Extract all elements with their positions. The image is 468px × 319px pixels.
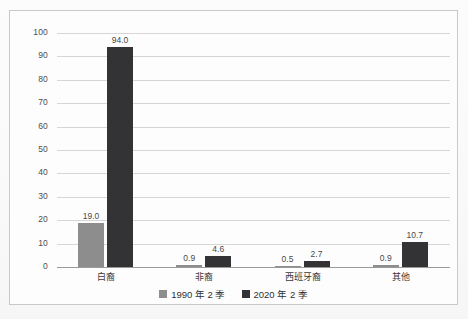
bar-1990-3[interactable]: [373, 265, 399, 267]
bar-2020-1[interactable]: [205, 256, 231, 267]
bar-2020-3[interactable]: [402, 242, 428, 267]
bar-value-2020-2: 2.7: [294, 250, 340, 259]
category-label-0: 白裔: [57, 270, 155, 283]
y-axis-tick-70: 70: [14, 98, 48, 107]
y-axis-tick-100: 100: [14, 28, 48, 37]
category-label-2: 西班牙裔: [254, 270, 352, 283]
legend-swatch-2020-icon: [242, 290, 250, 298]
y-axis-tick-60: 60: [14, 122, 48, 131]
legend-item-1990[interactable]: 1990 年 2 季: [159, 287, 225, 301]
bar-2020-0[interactable]: [107, 47, 133, 267]
chart-frame: 100 90 80 70 60 50 40 30 20 10 0 19.0 9: [9, 10, 458, 305]
gridline-zero-axis: [57, 267, 450, 268]
y-axis-tick-50: 50: [14, 145, 48, 154]
bar-group-3: 0.9 10.7: [352, 33, 450, 267]
bar-1990-0[interactable]: [78, 223, 104, 267]
bar-2020-2[interactable]: [304, 261, 330, 267]
bar-1990-2[interactable]: [275, 266, 301, 267]
y-axis-tick-30: 30: [14, 192, 48, 201]
category-label-1: 非裔: [155, 270, 253, 283]
y-axis-tick-20: 20: [14, 215, 48, 224]
bar-1990-1[interactable]: [176, 265, 202, 267]
bar-value-2020-1: 4.6: [195, 245, 241, 254]
y-axis-tick-80: 80: [14, 75, 48, 84]
bar-value-2020-3: 10.7: [392, 231, 438, 240]
y-axis-tick-10: 10: [14, 239, 48, 248]
legend-item-2020[interactable]: 2020 年 2 季: [242, 287, 308, 301]
chart-plot-area: 19.0 94.0 0.9 4.6 0.5 2.7 0.9: [57, 33, 450, 267]
y-axis-tick-0: 0: [14, 262, 48, 271]
bar-value-2020-0: 94.0: [97, 36, 143, 45]
y-axis-tick-90: 90: [14, 51, 48, 60]
bar-group-2: 0.5 2.7: [254, 33, 352, 267]
bar-group-0: 19.0 94.0: [57, 33, 155, 267]
y-axis-tick-40: 40: [14, 168, 48, 177]
chart-plot-wrapper: 100 90 80 70 60 50 40 30 20 10 0 19.0 9: [10, 11, 457, 304]
chart-legend: 1990 年 2 季 2020 年 2 季: [10, 287, 457, 301]
legend-label-2020: 2020 年 2 季: [254, 287, 308, 301]
legend-label-1990: 1990 年 2 季: [171, 287, 225, 301]
legend-swatch-1990-icon: [159, 290, 167, 298]
bar-group-1: 0.9 4.6: [155, 33, 253, 267]
category-label-3: 其他: [352, 270, 450, 283]
